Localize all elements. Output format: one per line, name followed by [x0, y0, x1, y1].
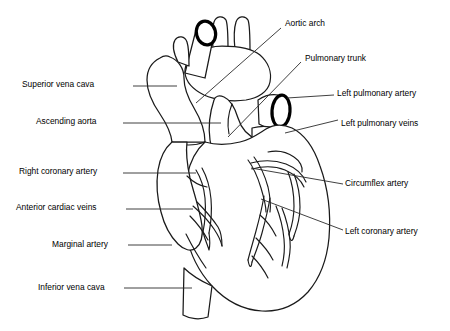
label-right-coronary-artery: Right coronary artery — [19, 167, 97, 175]
left-pulmonary-artery-lumen — [271, 94, 291, 127]
label-pulmonary-trunk: Pulmonary trunk — [305, 54, 366, 62]
label-inferior-vena-cava: Inferior vena cava — [38, 283, 105, 291]
label-circumflex-artery: Circumflex artery — [345, 179, 408, 187]
heart-anatomy-diagram: Superior vena cava Ascending aorta Right… — [0, 0, 450, 331]
leader-left-pulmonary-veins — [285, 120, 338, 133]
label-left-coronary-artery: Left coronary artery — [345, 227, 418, 235]
label-ascending-aorta: Ascending aorta — [36, 117, 97, 125]
label-left-pulmonary-veins: Left pulmonary veins — [341, 119, 418, 127]
label-aortic-arch: Aortic arch — [285, 19, 325, 27]
label-superior-vena-cava: Superior vena cava — [22, 80, 94, 88]
label-marginal-artery: Marginal artery — [52, 240, 108, 248]
leader-left-pulmonary-artery — [287, 95, 334, 98]
label-left-pulmonary-artery: Left pulmonary artery — [337, 89, 416, 97]
label-anterior-cardiac-veins: Anterior cardiac veins — [16, 203, 97, 211]
